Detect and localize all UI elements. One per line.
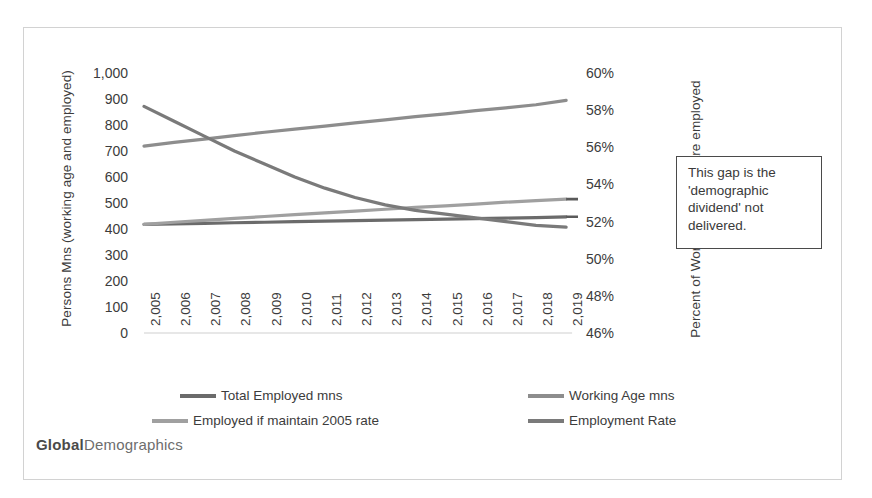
y-tick-right: 46% xyxy=(586,325,614,341)
legend-item-employed-if-2005-rate: Employed if maintain 2005 rate xyxy=(152,413,379,428)
globaldemographics-watermark: GlobalDemographics xyxy=(36,436,183,453)
y-tick-right: 60% xyxy=(586,65,614,81)
y-tick-left: 600 xyxy=(105,169,128,185)
x-tick: 2,011 xyxy=(330,293,344,326)
legend-swatch-icon xyxy=(152,419,188,423)
x-tick: 2,006 xyxy=(179,292,193,326)
y-tick-left: 200 xyxy=(105,273,128,289)
y-tick-left: 300 xyxy=(105,247,128,263)
legend-item-working-age: Working Age mns xyxy=(528,388,675,403)
legend-item-employment-rate: Employment Rate xyxy=(528,413,676,428)
y-tick-left: 0 xyxy=(120,325,128,341)
legend-swatch-icon xyxy=(528,419,564,423)
x-tick: 2,010 xyxy=(300,292,314,326)
x-tick: 2,005 xyxy=(149,292,163,326)
y-tick-right: 48% xyxy=(586,288,614,304)
x-tick: 2,012 xyxy=(360,292,374,326)
legend-swatch-icon xyxy=(528,394,564,398)
y-tick-left: 900 xyxy=(105,91,128,107)
legend-label: Employment Rate xyxy=(569,413,676,428)
chart-frame: Persons Mns (working age and employed) P… xyxy=(23,27,842,480)
legend-label: Total Employed mns xyxy=(221,388,343,403)
watermark-bold: Global xyxy=(36,436,84,453)
x-tick: 2,013 xyxy=(390,292,404,326)
y-tick-left: 800 xyxy=(105,117,128,133)
legend-item-total-employed: Total Employed mns xyxy=(180,388,343,403)
x-tick: 2,008 xyxy=(239,292,253,326)
callout-line-4: delivered. xyxy=(688,217,812,235)
callout-line-3: dividend' not xyxy=(688,199,812,217)
x-tick: 2,014 xyxy=(420,292,434,326)
y-tick-left: 100 xyxy=(105,299,128,315)
legend-label: Employed if maintain 2005 rate xyxy=(193,413,379,428)
y-tick-left: 400 xyxy=(105,221,128,237)
x-tick: 2,019 xyxy=(571,292,585,326)
watermark-light: Demographics xyxy=(84,436,183,453)
y-tick-right: 56% xyxy=(586,139,614,155)
callout-line-1: This gap is the xyxy=(688,164,812,182)
x-tick: 2,009 xyxy=(270,292,284,326)
y-axis-ticks-right: 60%58%56%54%52%50%48%46% xyxy=(586,28,646,333)
series-line-3 xyxy=(144,106,566,227)
y-tick-left: 1,000 xyxy=(93,65,128,81)
y-tick-left: 500 xyxy=(105,195,128,211)
gap-bracket xyxy=(566,199,578,217)
y-tick-right: 54% xyxy=(586,176,614,192)
legend-swatch-icon xyxy=(180,394,216,398)
legend-label: Working Age mns xyxy=(569,388,675,403)
y-tick-left: 700 xyxy=(105,143,128,159)
x-tick: 2,017 xyxy=(511,292,525,326)
callout-line-2: 'demographic xyxy=(688,182,812,200)
x-tick: 2,018 xyxy=(541,292,555,326)
y-tick-right: 50% xyxy=(586,251,614,267)
x-tick: 2,015 xyxy=(451,292,465,326)
demographic-dividend-callout: This gap is the 'demographic dividend' n… xyxy=(676,156,822,249)
chart-legend: Total Employed mns Working Age mns Emplo… xyxy=(124,386,764,442)
y-axis-ticks-left: 1,0009008007006005004003002001000 xyxy=(62,28,128,333)
y-tick-right: 58% xyxy=(586,102,614,118)
x-tick: 2,007 xyxy=(209,292,223,326)
y-tick-right: 52% xyxy=(586,214,614,230)
x-tick: 2,016 xyxy=(481,292,495,326)
